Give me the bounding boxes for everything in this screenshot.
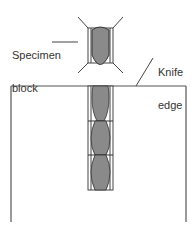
- clamp-line: [78, 17, 88, 28]
- section-2-tissue: [91, 121, 110, 155]
- clamp-line: [113, 63, 123, 73]
- knife-label-line1: Knife: [158, 67, 183, 78]
- clamp-line: [113, 17, 123, 28]
- knife-label-line2: edge: [158, 100, 183, 111]
- specimen-block-label: Specimen block: [12, 28, 61, 116]
- specimen-block: [78, 17, 123, 73]
- section-ribbon: [88, 86, 113, 190]
- specimen-label-line1: Specimen: [12, 50, 61, 61]
- clamp-line: [78, 63, 88, 73]
- knife-edge-leader-line: [136, 58, 153, 86]
- tissue-specimen: [92, 27, 109, 65]
- specimen-label-line2: block: [12, 83, 61, 94]
- knife-edge-label: Knife edge: [158, 45, 183, 133]
- section-1-tissue: [92, 86, 109, 121]
- section-3-tissue: [91, 155, 110, 190]
